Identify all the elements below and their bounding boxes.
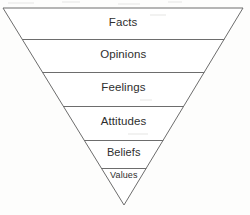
- scan-artifact: [128, 133, 148, 135]
- scan-artifact: [150, 14, 166, 16]
- scan-artifact: [140, 99, 152, 101]
- scan-artifact: [8, 2, 34, 4]
- band-label-feelings: Feelings: [0, 82, 248, 94]
- band-label-attitudes: Attitudes: [0, 116, 249, 128]
- band-label-beliefs: Beliefs: [0, 147, 249, 158]
- scan-artifact: [118, 3, 140, 5]
- band-label-facts: Facts: [0, 17, 248, 29]
- triangle-outline-svg: [0, 0, 250, 215]
- scan-artifact: [62, 1, 80, 3]
- band-label-opinions: Opinions: [0, 49, 248, 61]
- band-label-values: Values: [0, 171, 249, 180]
- scan-artifact: [168, 1, 182, 3]
- inverted-triangle-diagram: Facts Opinions Feelings Attitudes Belief…: [0, 0, 250, 215]
